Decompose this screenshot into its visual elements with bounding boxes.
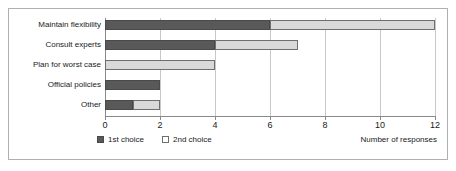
bar-segment-first-choice	[105, 100, 133, 110]
plot-area	[105, 18, 435, 116]
category-label: Other	[9, 100, 101, 110]
category-axis-labels: Maintain flexibility Consult experts Pla…	[9, 18, 101, 116]
gridline-12	[435, 18, 436, 116]
x-tick-label: 2	[145, 119, 175, 131]
bar-segment-second-choice	[270, 20, 435, 30]
bar-segment-first-choice	[105, 80, 160, 90]
x-tick-label: 10	[365, 119, 395, 131]
bar-segment-second-choice	[133, 100, 161, 110]
x-tick-label: 0	[90, 119, 120, 131]
category-label: Plan for worst case	[9, 60, 101, 70]
x-tick-label: 8	[310, 119, 340, 131]
legend-item-second-choice[interactable]: 2nd choice	[162, 135, 212, 144]
category-label: Official policies	[9, 80, 101, 90]
category-label: Consult experts	[9, 40, 101, 50]
gridline-6	[270, 18, 271, 116]
legend-item-first-choice[interactable]: 1st choice	[97, 135, 144, 144]
category-label: Maintain flexibility	[9, 20, 101, 30]
legend-label: 1st choice	[108, 135, 144, 144]
bar-segment-first-choice	[105, 40, 215, 50]
x-axis-title: Number of responses	[361, 135, 437, 145]
chart-frame: Maintain flexibility Consult experts Pla…	[8, 8, 448, 160]
x-tick-label: 12	[420, 119, 450, 131]
legend-swatch-icon	[97, 136, 104, 143]
chart-legend: 1st choice 2nd choice	[97, 135, 212, 144]
legend-label: 2nd choice	[173, 135, 212, 144]
bar-segment-second-choice	[215, 40, 298, 50]
gridline-8	[325, 18, 326, 116]
bar-segment-second-choice	[105, 60, 215, 70]
gridline-4	[215, 18, 216, 116]
x-axis-tick-labels: 0 2 4 6 8 10 12	[9, 119, 449, 131]
gridline-10	[380, 18, 381, 116]
x-tick-label: 6	[255, 119, 285, 131]
bar-segment-first-choice	[105, 20, 270, 30]
x-tick-label: 4	[200, 119, 230, 131]
legend-swatch-icon	[162, 136, 169, 143]
